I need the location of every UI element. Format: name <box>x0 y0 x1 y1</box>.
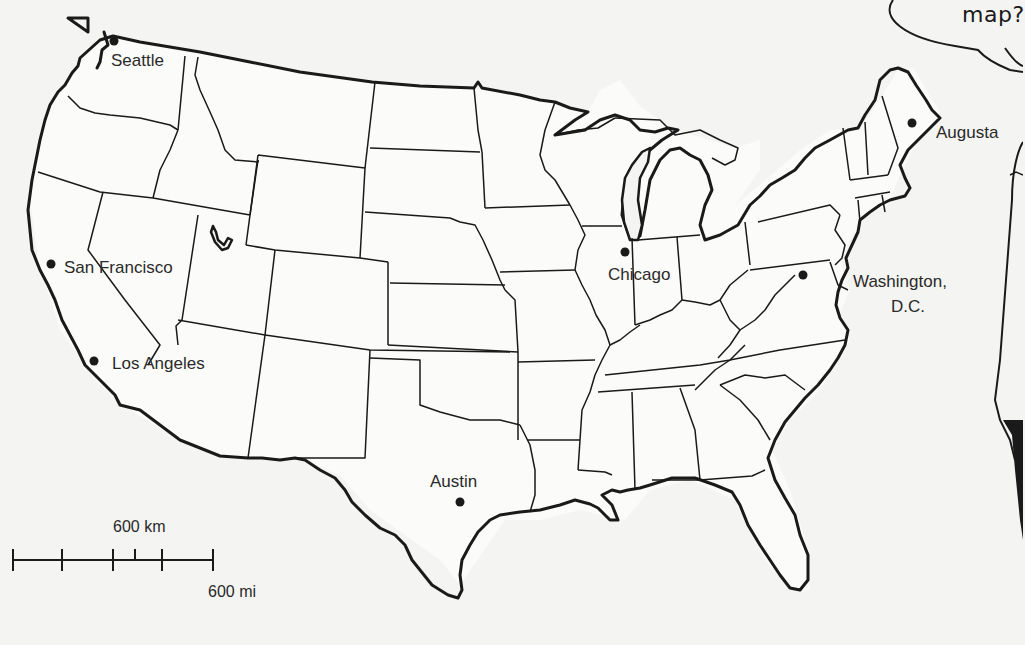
city-dot-los-angeles[interactable] <box>90 357 99 366</box>
scale-label-mi: 600 mi <box>208 583 256 601</box>
city-label-austin: Austin <box>430 473 477 490</box>
city-label-augusta: Augusta <box>936 124 998 141</box>
city-dot-austin[interactable] <box>456 498 465 507</box>
city-label-washington-line2: D.C. <box>891 298 925 315</box>
city-label-chicago: Chicago <box>608 266 670 283</box>
cartoon-character <box>995 142 1023 540</box>
vancouver-island-tip <box>68 18 88 32</box>
city-dot-seattle[interactable] <box>110 37 119 46</box>
city-label-seattle: Seattle <box>111 52 164 69</box>
us-landmass <box>30 36 940 590</box>
city-dot-chicago[interactable] <box>621 248 630 257</box>
scale-label-km: 600 km <box>113 518 165 536</box>
city-dot-augusta[interactable] <box>908 119 917 128</box>
city-label-washington-line1: Washington, <box>853 273 947 290</box>
scale-bar <box>13 549 213 571</box>
city-label-los-angeles: Los Angeles <box>112 355 205 372</box>
city-label-san-francisco: San Francisco <box>64 259 173 276</box>
city-dot-washington-dc[interactable] <box>799 271 808 280</box>
speech-bubble-text: map? <box>962 2 1025 27</box>
city-dot-san-francisco[interactable] <box>47 260 56 269</box>
